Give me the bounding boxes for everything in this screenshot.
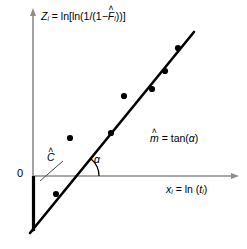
slope-function: tan(	[171, 133, 189, 144]
slope-annotation: ˄m = tan(α)	[150, 133, 198, 144]
data-point	[108, 130, 114, 136]
data-point	[121, 93, 127, 99]
slope-hatted-variable: ˄m	[150, 133, 159, 144]
weibull-regression-figure: Zi = ln[ln(1/(1− ˄Fi))] xi = ln (ti) ˄m …	[0, 0, 247, 249]
x-axis-label: xi = ln (ti)	[166, 184, 207, 195]
x-axis-function: ln (	[185, 184, 200, 195]
y-axis-expression-open: ln[ln(1/(1−	[61, 11, 108, 22]
hat-accent-icon: ˄	[48, 146, 53, 155]
data-point	[67, 135, 73, 141]
hat-accent-icon: ˄	[152, 127, 157, 136]
y-axis-arrowhead	[30, 8, 36, 16]
intercept-hatted-variable: ˄C	[47, 152, 55, 163]
angle-label: α	[94, 154, 100, 165]
data-point	[149, 86, 155, 92]
data-point	[162, 68, 168, 74]
hat-accent-icon: ˄	[109, 4, 114, 13]
y-axis-expression-close: ))]	[116, 11, 126, 22]
plot-canvas	[0, 0, 247, 249]
intercept-leader-line	[40, 161, 63, 181]
x-axis-arrowhead	[231, 173, 239, 179]
data-point	[175, 45, 181, 51]
x-axis-close-paren: )	[204, 184, 208, 195]
slope-close-paren: )	[195, 133, 199, 144]
intercept-label: ˄C	[47, 152, 55, 163]
y-axis-label: Zi = ln[ln(1/(1− ˄Fi))]	[41, 11, 126, 22]
data-point	[53, 191, 59, 197]
x-axis	[33, 173, 239, 179]
origin-label: 0	[17, 168, 23, 179]
data-points	[53, 45, 181, 197]
